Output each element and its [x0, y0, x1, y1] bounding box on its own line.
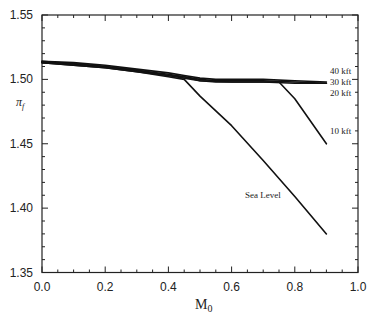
x-tick-label: 0.6	[223, 280, 240, 294]
y-tick-label: 1.50	[10, 72, 34, 86]
series-label-10kft: 10 kft	[330, 126, 352, 136]
y-tick-label: 1.45	[10, 137, 34, 151]
y-axis-ticks	[42, 15, 358, 273]
series-label-20kft: 20 kft	[330, 88, 352, 98]
y-axis-title: πf	[16, 95, 26, 111]
plot-frame	[42, 15, 358, 273]
series-label-30kft: 30 kft	[330, 77, 352, 87]
series-label-sea-level: Sea Level	[245, 190, 281, 200]
series-line-sea-level	[42, 63, 326, 234]
x-tick-label: 0.0	[34, 280, 51, 294]
y-tick-label: 1.40	[10, 201, 34, 215]
series-lines	[42, 61, 326, 234]
x-axis-ticks	[42, 15, 358, 273]
x-tick-label: 0.8	[286, 280, 303, 294]
x-tick-label: 0.4	[160, 280, 177, 294]
x-axis-title: M0	[195, 297, 212, 314]
series-label-40kft: 40 kft	[330, 66, 352, 76]
x-tick-label: 1.0	[350, 280, 367, 294]
y-tick-label: 1.55	[10, 8, 34, 22]
line-chart: 0.0 0.2 0.4 0.6 0.8 1.0 1.35 1.40 1.45 1…	[0, 0, 375, 323]
x-tick-label: 0.2	[97, 280, 114, 294]
y-tick-label: 1.35	[10, 266, 34, 280]
